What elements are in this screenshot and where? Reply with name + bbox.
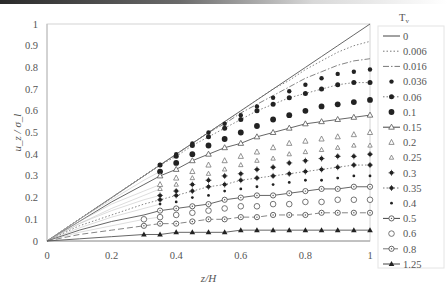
legend-label: 0.1 (403, 107, 416, 118)
y-tick-label: 0 (33, 236, 38, 247)
y-tick-label: 0.9 (25, 40, 38, 51)
legend: Tv00.0060.0160.0360.060.10.150.20.250.30… (378, 12, 444, 270)
x-axis-label: z/H (200, 272, 217, 284)
x-tick-label: 0.2 (105, 250, 118, 261)
legend-label: 0.016 (403, 61, 427, 72)
y-tick-label: 0.8 (25, 62, 38, 73)
legend-label: 0.25 (403, 152, 421, 163)
legend-label: 0.5 (403, 213, 416, 224)
legend-label: 0.4 (403, 198, 417, 209)
x-tick-label: 0.6 (234, 250, 247, 261)
x-tick-label: 0.4 (170, 250, 184, 261)
series-0_25 (47, 143, 372, 241)
y-axis-label: u_z / σ_l (11, 114, 23, 152)
legend-label: 0.8 (403, 244, 416, 255)
y-tick-label: 0.4 (25, 149, 39, 160)
x-tick-label: 0 (44, 250, 49, 261)
y-tick-label: 0.7 (25, 84, 38, 95)
legend-label: 0.6 (403, 228, 416, 239)
chart: 00.10.20.30.40.50.60.70.80.9100.20.40.60… (0, 0, 447, 290)
legend-label: 1.25 (403, 259, 421, 270)
legend-title: Tv (399, 12, 409, 25)
y-tick-label: 1 (33, 19, 38, 30)
y-tick-label: 0.5 (25, 127, 38, 138)
legend-label: 0.006 (403, 46, 427, 57)
y-tick-label: 0.2 (25, 192, 38, 203)
y-tick-label: 0.1 (25, 214, 38, 225)
y-tick-label: 0.6 (25, 105, 38, 116)
x-tick-label: 1 (367, 250, 372, 261)
legend-label: 0.2 (403, 137, 416, 148)
legend-label: 0.15 (403, 122, 421, 133)
legend-label: 0.35 (403, 183, 421, 194)
legend-label: 0.06 (403, 92, 421, 103)
legend-label: 0 (403, 31, 408, 42)
y-tick-label: 0.3 (25, 170, 38, 181)
x-tick-label: 0.8 (299, 250, 312, 261)
legend-label: 0.036 (403, 76, 427, 87)
legend-label: 0.3 (403, 168, 416, 179)
